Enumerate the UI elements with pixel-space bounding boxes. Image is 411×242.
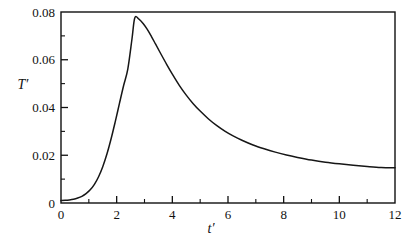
data-curve [61, 17, 395, 201]
x-tick-label: 12 [389, 207, 402, 222]
chart-plot: 024681012 00.020.040.060.08 T′ t′ [0, 0, 411, 242]
y-axis-tick-labels: 00.020.040.060.08 [32, 5, 55, 211]
x-tick-label: 6 [225, 207, 232, 222]
x-axis-tick-labels: 024681012 [58, 207, 402, 222]
y-axis-title: T′ [18, 77, 30, 92]
y-tick-label: 0.02 [32, 148, 55, 163]
x-axis-title: t′ [208, 221, 216, 236]
y-tick-label: 0.06 [32, 52, 55, 67]
x-tick-label: 0 [58, 207, 65, 222]
x-tick-label: 10 [333, 207, 346, 222]
figure-container: 024681012 00.020.040.060.08 T′ t′ [0, 0, 411, 242]
x-tick-label: 2 [113, 207, 120, 222]
x-axis-major-ticks [117, 196, 340, 203]
x-tick-label: 4 [169, 207, 176, 222]
y-tick-label: 0.04 [32, 100, 55, 115]
x-tick-label: 8 [280, 207, 287, 222]
y-tick-label: 0 [49, 196, 56, 211]
y-tick-label: 0.08 [32, 5, 55, 20]
y-axis-major-ticks [61, 60, 68, 156]
plot-frame [61, 12, 395, 203]
